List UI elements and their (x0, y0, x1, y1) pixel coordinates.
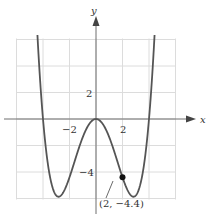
y-axis-arrow-icon (93, 16, 100, 26)
x-tick-label-neg2: −2 (62, 124, 77, 135)
x-tick-label-2: 2 (120, 124, 126, 135)
y-tick-label-2: 2 (86, 88, 92, 99)
x-axis-label: x (200, 114, 206, 125)
y-tick-label-neg4: −4 (79, 167, 94, 178)
point-marker (120, 174, 126, 180)
y-axis-label: y (90, 5, 97, 16)
point-label: (2, −4.4) (99, 198, 144, 209)
function-graph: x y −2 2 2 −4 (2, −4.4) (0, 0, 208, 214)
point-leader-line (106, 181, 113, 198)
x-axis-arrow-icon (186, 116, 196, 123)
